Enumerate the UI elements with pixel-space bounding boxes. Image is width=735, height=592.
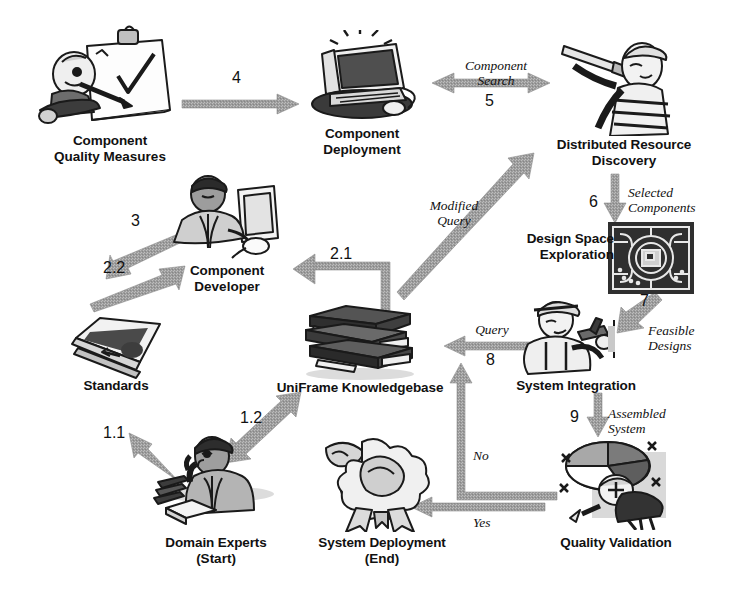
arrow-caption-assembled-system-line1: Assembled: [608, 406, 700, 421]
arrow-label-4: 4: [232, 69, 241, 87]
arrow-label-3: 3: [131, 212, 140, 230]
arrow-1-1-shape: [129, 433, 184, 487]
node-label-system-deployment-line2: (End): [300, 551, 464, 567]
arrow-caption-assembled-system-line2: System: [608, 421, 700, 436]
arrow-caption-modified-query-line2: Query: [406, 213, 502, 228]
arrow-caption-yes-line1: Yes: [473, 515, 513, 530]
ornamental-circuit-tile-icon: [608, 222, 694, 294]
node-component-quality-measures[interactable]: Component Quality Measures: [0, 133, 220, 164]
arrow-caption-selected-components-line2: Components: [628, 200, 728, 215]
arrow-caption-yes: Yes: [473, 515, 513, 530]
sailor-with-telescope-icon: [556, 28, 684, 136]
node-component-deployment[interactable]: Component Deployment: [272, 126, 452, 157]
expert-on-phone-with-books-icon: [150, 432, 280, 532]
arrow-label-7: 7: [640, 292, 649, 310]
arrow-caption-no-line1: No: [473, 448, 513, 463]
stack-of-books-icon: [296, 302, 424, 380]
node-distributed-resource-discovery[interactable]: Distributed Resource Discovery: [524, 137, 724, 168]
node-label-distributed-resource-discovery-line1: Distributed Resource: [524, 137, 724, 153]
arrow-layer: [0, 0, 735, 592]
arrow-caption-no: No: [473, 448, 513, 463]
arrow-label-9: 9: [570, 408, 579, 426]
node-label-component-developer-line2: Developer: [162, 279, 292, 295]
arrow-label-2-2: 2.2: [103, 259, 125, 277]
arrow-caption-query-line1: Query: [462, 322, 522, 337]
arrow-caption-feasible-designs: Feasible Designs: [648, 323, 734, 353]
node-component-developer[interactable]: Component Developer: [162, 263, 292, 294]
node-label-system-deployment-line1: System Deployment: [300, 535, 464, 551]
arrow-label-1-2: 1.2: [240, 409, 262, 427]
pie-chart-with-inspector-icon: [554, 432, 678, 530]
arrow-caption-feasible-designs-line1: Feasible: [648, 323, 734, 338]
arrow-caption-modified-query-line1: Modified: [406, 198, 502, 213]
node-label-design-space-exploration-line1: Design Space: [490, 231, 614, 247]
node-standards[interactable]: Standards: [58, 378, 174, 394]
arrow-caption-assembled-system: Assembled System: [608, 406, 700, 436]
node-label-domain-experts-line1: Domain Experts: [140, 535, 292, 551]
arrow-yes-shape: [411, 497, 545, 517]
award-ribbon-rosette-icon: [322, 436, 438, 532]
arrow-caption-selected-components-line1: Selected: [628, 185, 728, 200]
node-label-component-developer-line1: Component: [162, 263, 292, 279]
arrow-4-shape: [182, 94, 299, 114]
node-uniframe-knowledgebase[interactable]: UniFrame Knowledgebase: [268, 380, 452, 396]
arrow-caption-selected-components: Selected Components: [628, 185, 728, 215]
arrow-label-8: 8: [486, 351, 495, 369]
node-system-integration[interactable]: System Integration: [496, 378, 656, 394]
arrow-caption-component-search-line1: Component: [444, 58, 548, 73]
arrow-label-5: 5: [485, 92, 494, 110]
node-label-component-deployment-line2: Deployment: [272, 142, 452, 158]
arrow-caption-feasible-designs-line2: Designs: [648, 338, 734, 353]
node-label-domain-experts-line2: (Start): [140, 551, 292, 567]
desktop-computer-icon: [300, 30, 426, 126]
arrow-6-shape: [604, 174, 626, 223]
node-label-standards: Standards: [58, 378, 174, 394]
process-diagram: Component Quality Measures Component Dep…: [0, 0, 735, 592]
arrow-caption-query: Query: [462, 322, 522, 337]
arrow-label-2-1: 2.1: [330, 245, 352, 263]
node-label-system-integration: System Integration: [496, 378, 656, 394]
node-label-uniframe-knowledgebase: UniFrame Knowledgebase: [268, 380, 452, 396]
developer-at-computer-icon: [166, 172, 284, 264]
node-domain-experts[interactable]: Domain Experts (Start): [140, 535, 292, 566]
node-system-deployment[interactable]: System Deployment (End): [300, 535, 464, 566]
worker-with-hammer-icon: [512, 296, 628, 382]
node-quality-validation[interactable]: Quality Validation: [542, 535, 690, 551]
node-label-component-quality-measures-line2: Quality Measures: [0, 149, 220, 165]
arrow-caption-component-search: Component Search: [444, 58, 548, 88]
node-design-space-exploration[interactable]: Design Space Exploration: [490, 231, 614, 262]
arrow-caption-modified-query: Modified Query: [406, 198, 502, 228]
node-label-distributed-resource-discovery-line2: Discovery: [524, 153, 724, 169]
open-book-icon: [64, 310, 168, 382]
arrow-label-6: 6: [589, 193, 598, 211]
arrow-2-1-shape: [293, 254, 397, 333]
arrow-caption-component-search-line2: Search: [444, 73, 548, 88]
arrow-9-shape: [587, 393, 609, 437]
arrow-1-2-shape: [225, 392, 301, 463]
person-with-clipboard-checklist-icon: [32, 24, 182, 134]
node-label-component-deployment-line1: Component: [272, 126, 452, 142]
node-label-design-space-exploration-line2: Exploration: [490, 247, 614, 263]
node-label-quality-validation: Quality Validation: [542, 535, 690, 551]
node-label-component-quality-measures-line1: Component: [0, 133, 220, 149]
arrow-label-1-1: 1.1: [103, 424, 125, 442]
